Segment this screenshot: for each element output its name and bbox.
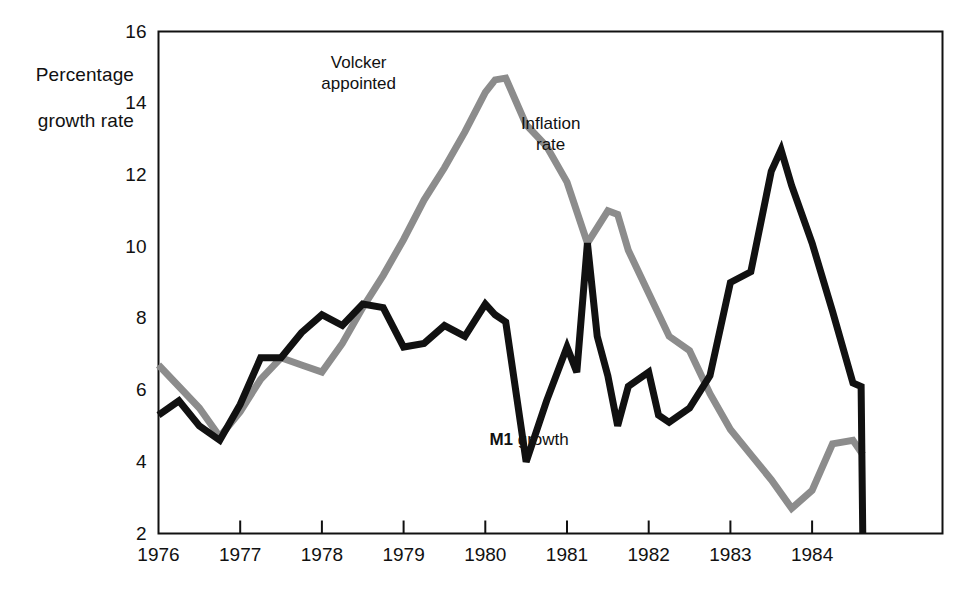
x-tick-label: 1979 xyxy=(369,545,439,564)
y-tick-label: 6 xyxy=(91,380,147,399)
y-axis-title-line1: Percentage xyxy=(36,64,134,85)
y-tick-label: 4 xyxy=(91,452,147,471)
y-tick-label: 8 xyxy=(91,308,147,327)
inflation-rate-label: Inflation rate xyxy=(486,113,616,155)
series-line-m1-growth xyxy=(159,150,863,534)
x-tick-label: 1977 xyxy=(205,545,275,564)
x-tick-label: 1976 xyxy=(124,545,194,564)
m1-growth-label-bold: M1 xyxy=(489,430,513,449)
y-axis-title: Percentage growth rate xyxy=(14,40,134,132)
y-tick-label: 14 xyxy=(91,93,147,112)
y-tick-label: 2 xyxy=(91,524,147,543)
y-tick-label: 10 xyxy=(91,237,147,256)
y-tick-label: 16 xyxy=(91,22,147,41)
chart-figure: Percentage growth rate 246810121416 1976… xyxy=(0,0,968,591)
x-tick-label: 1984 xyxy=(777,545,847,564)
x-tick-label: 1980 xyxy=(450,545,520,564)
m1-growth-label: M1 growth xyxy=(489,430,568,450)
x-tick-label: 1982 xyxy=(614,545,684,564)
x-axis-ticks xyxy=(240,521,812,534)
x-tick-label: 1981 xyxy=(532,545,602,564)
m1-growth-label-rest: growth xyxy=(513,430,569,449)
x-tick-label: 1978 xyxy=(287,545,357,564)
y-axis-title-line2: growth rate xyxy=(38,110,134,131)
volcker-appointed: Volcker appointed xyxy=(294,52,424,94)
y-tick-label: 12 xyxy=(91,165,147,184)
x-tick-label: 1983 xyxy=(695,545,765,564)
plot-area xyxy=(0,0,968,591)
